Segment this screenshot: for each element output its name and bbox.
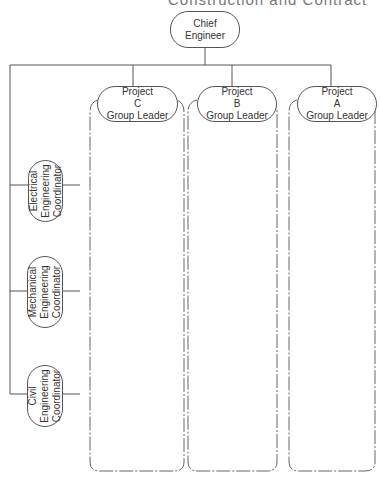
node-label: Project — [107, 86, 169, 98]
node-label: Chief — [185, 18, 225, 30]
project-b-leader-node: Project B Group Leader — [197, 86, 277, 122]
node-label: B — [206, 98, 268, 110]
electrical-coordinator-node: Electrical Engineering Coordinator — [28, 160, 63, 222]
chief-engineer-node: Chief Engineer — [170, 11, 240, 48]
node-label: Coordinator — [51, 265, 63, 318]
node-label: Mechanical — [27, 265, 39, 318]
node-label: Coordinator — [51, 369, 63, 422]
project-a-leader-node: Project A Group Leader — [297, 86, 377, 122]
node-label: Engineering — [39, 369, 51, 422]
node-label: Engineering — [39, 265, 51, 318]
node-label: Group Leader — [206, 110, 268, 122]
civil-coordinator-node: Civil Engineering Coordinator — [27, 365, 63, 427]
node-label: Coordinator — [52, 164, 64, 217]
project-a-column — [289, 100, 375, 471]
project-b-column — [188, 100, 277, 471]
node-label: Project — [206, 86, 268, 98]
node-label: Engineer — [185, 30, 225, 42]
node-label: Group Leader — [107, 110, 169, 122]
project-c-column — [90, 100, 184, 471]
node-label: Civil — [27, 369, 39, 422]
node-label: A — [306, 98, 368, 110]
node-label: Project — [306, 86, 368, 98]
mechanical-coordinator-node: Mechanical Engineering Coordinator — [27, 256, 63, 328]
node-label: Electrical — [28, 164, 40, 217]
node-label: Group Leader — [306, 110, 368, 122]
node-label: Engineering — [40, 164, 52, 217]
node-label: C — [107, 98, 169, 110]
project-c-leader-node: Project C Group Leader — [97, 86, 178, 122]
